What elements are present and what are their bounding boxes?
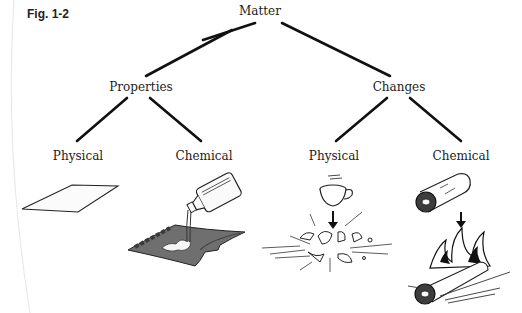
connector-matter-properties: [146, 30, 232, 76]
paper-sheet-icon: [22, 185, 118, 212]
connector-properties-chemical: [150, 98, 201, 141]
connector-properties-physical: [77, 98, 127, 141]
cup-shattering-icon: [262, 175, 392, 272]
page-edge: [11, 0, 30, 313]
connector-matter-changes: [282, 23, 390, 76]
connector-changes-physical: [336, 98, 387, 141]
tree-connectors: [77, 23, 461, 141]
log-burning-icon: [408, 174, 510, 304]
liquid-poured-on-fabric-icon: [128, 171, 245, 266]
connector-changes-chemical: [410, 98, 461, 141]
diagram-canvas: [0, 0, 522, 313]
